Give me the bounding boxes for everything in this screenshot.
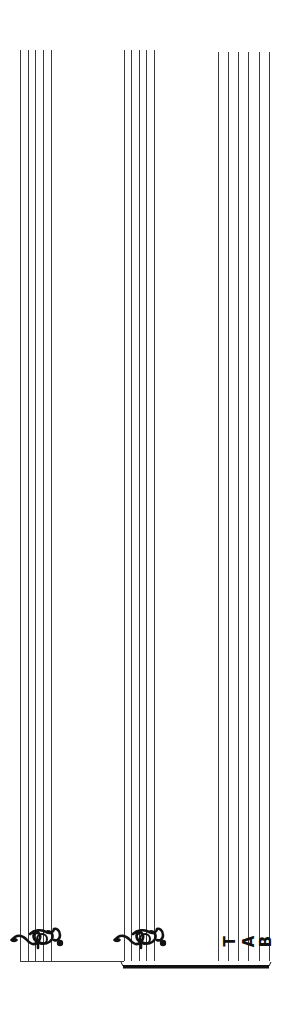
treble-clef-icon [111, 926, 169, 954]
staff-line [20, 50, 21, 961]
tab-line [248, 52, 249, 961]
treble-clef-icon [8, 926, 66, 954]
tab-line [218, 52, 219, 961]
tab-line [238, 52, 239, 961]
system-bracket [120, 962, 272, 970]
tab-letter-t: T [223, 936, 238, 946]
tab-line [259, 52, 260, 961]
staff-line [51, 50, 52, 961]
staff-line [43, 50, 44, 961]
tab-line [269, 52, 270, 961]
staff-line [146, 50, 147, 961]
staff-line [35, 50, 36, 961]
staff-line [154, 50, 155, 961]
staff-line [131, 50, 132, 961]
tab-letter-a: A [242, 936, 257, 948]
staff-line [28, 50, 29, 961]
score-page: T A B [0, 0, 287, 1013]
tab-letter-b: B [259, 936, 274, 947]
staff-line [124, 50, 125, 961]
system-barline [20, 961, 124, 962]
staff-line [139, 50, 140, 961]
tab-line [228, 52, 229, 961]
